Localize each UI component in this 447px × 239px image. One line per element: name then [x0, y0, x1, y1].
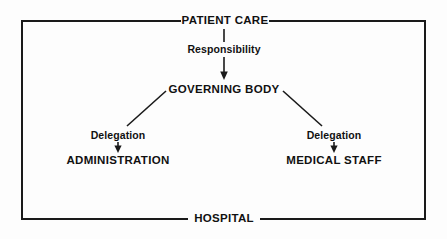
node-responsibility: Responsibility [174, 44, 274, 55]
node-delegation-right: Delegation [284, 130, 384, 141]
arrowhead-responsibility-to-governing-body [220, 72, 228, 81]
boundary-top-right-edge [268, 20, 426, 22]
connector-lines [0, 0, 447, 239]
node-governing-body: GOVERNING BODY [159, 84, 289, 96]
node-patient-care: PATIENT CARE [181, 13, 269, 29]
boundary-left-edge [21, 20, 23, 220]
node-medical-staff: MEDICAL STAFF [279, 155, 389, 167]
boundary-top-left-edge [21, 20, 181, 22]
node-administration: ADMINISTRATION [58, 155, 178, 167]
boundary-right-edge [424, 20, 426, 220]
node-hospital: HOSPITAL [188, 211, 260, 227]
boundary-bottom-right-edge [259, 218, 426, 220]
node-delegation-left: Delegation [68, 130, 168, 141]
diagram-canvas: PATIENT CARE HOSPITAL Responsibility GOV… [0, 0, 447, 239]
arrowhead-delegation-left-to-administration [114, 146, 121, 154]
arrowhead-delegation-right-to-medical-staff [330, 146, 337, 154]
line-governing-body-to-delegation-left [127, 91, 166, 126]
line-governing-body-to-delegation-right [283, 91, 322, 126]
boundary-bottom-left-edge [21, 218, 188, 220]
